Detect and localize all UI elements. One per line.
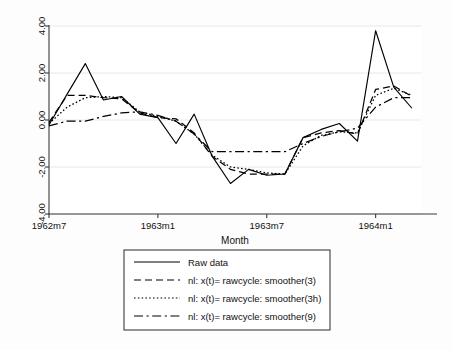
x-axis-tick-label: 1964m1	[358, 220, 392, 231]
legend-label-1: Raw data	[188, 257, 229, 268]
legend-label-2: nl: x(t)= rawcycle: smoother(3)	[188, 275, 316, 286]
y-axis-tick-label: -2.00	[36, 156, 47, 178]
chart-figure: 4.002.000.00-2.00-4.00 1962m71963m11963m…	[0, 0, 452, 350]
legend-label-3: nl: x(t)= rawcycle: smoother(3h)	[188, 293, 321, 304]
x-axis-tick-label: 1963m7	[250, 220, 284, 231]
y-axis-tick-label: 2.00	[36, 64, 47, 83]
y-axis-tick-label: 0.00	[36, 111, 47, 130]
x-axis-tick-label: 1963m1	[141, 220, 175, 231]
x-axis-tick-label: 1962m7	[32, 220, 66, 231]
legend-label-4: nl: x(t)= rawcycle: smoother(9)	[188, 311, 316, 322]
line-chart: 4.002.000.00-2.00-4.00 1962m71963m11963m…	[0, 0, 452, 350]
chart-legend: Raw datanl: x(t)= rawcycle: smoother(3)n…	[124, 250, 330, 330]
x-axis-title: Month	[221, 235, 249, 246]
y-axis-tick-label: 4.00	[36, 17, 47, 36]
